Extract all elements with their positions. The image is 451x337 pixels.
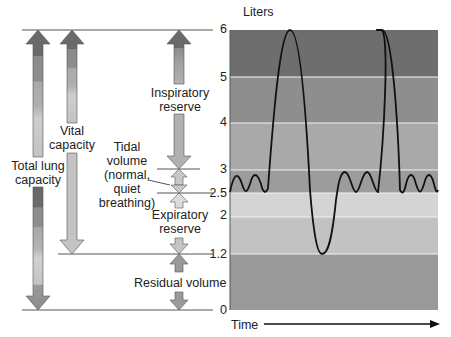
tidal-volume-arrows [171, 169, 187, 193]
tidal-volume-label: Tidalvolume(normal,quietbreathing) [97, 140, 157, 210]
inspiratory-reserve-label: Inspiratoryreserve [145, 86, 215, 114]
expiratory-reserve-label: Expiratoryreserve [145, 208, 215, 236]
time-arrow [264, 320, 440, 328]
tick-0: 0 [205, 303, 227, 317]
tick-3: 3 [205, 162, 227, 176]
tick-6: 6 [205, 22, 227, 36]
axis-unit-label: Liters [243, 5, 274, 19]
tick-2-5: 2.5 [205, 186, 227, 200]
volume-bands [230, 30, 438, 310]
tick-1-2: 1.2 [205, 247, 227, 261]
vital-capacity-label: Vitalcapacity [42, 124, 102, 152]
tick-4: 4 [205, 115, 227, 129]
residual-volume-label: Residual volume [134, 276, 226, 290]
tick-5: 5 [205, 70, 227, 84]
total-lung-capacity-label: Total lungcapacity [6, 159, 70, 187]
x-axis-label: Time [231, 318, 258, 332]
